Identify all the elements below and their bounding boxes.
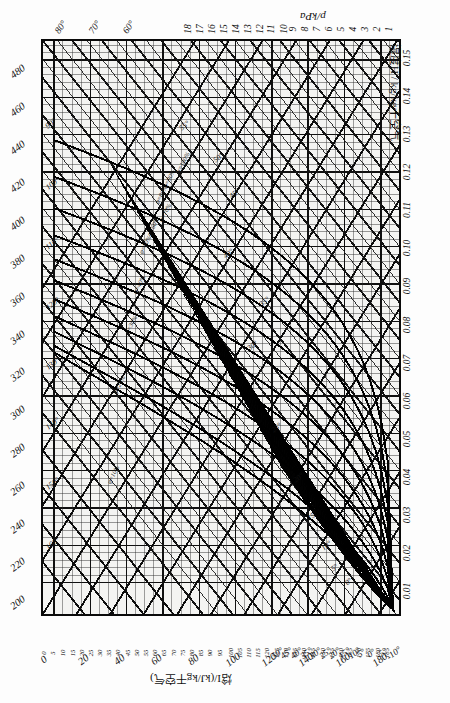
pressure-tick-13: 13 <box>243 24 253 34</box>
enthalpy-ladder-tick-110: 110 <box>245 648 252 657</box>
humidity-tick-0.02: 0.02 <box>402 545 412 562</box>
chart-grid-svg <box>43 41 399 614</box>
enthalpy-ladder-tick-15: 15 <box>69 650 76 657</box>
enthalpy-ladder-tick-90: 90 <box>207 650 214 657</box>
pressure-tick-14: 14 <box>231 24 241 34</box>
left-enthalpy-tick-200: 200 <box>8 593 27 611</box>
humidity-tick-0.09: 0.09 <box>402 278 412 295</box>
pressure-tick-4: 4 <box>348 27 358 32</box>
humidity-tick-0.12: 0.12 <box>402 164 412 181</box>
pressure-tick-10: 10 <box>279 24 289 34</box>
chart-plot-area: φ=100% φ=90% φ=80% φ=70% φ=60% φ=50% φ=4… <box>41 39 401 616</box>
humidity-tick-0.14: 0.14 <box>402 88 412 105</box>
left-enthalpy-tick-320: 320 <box>8 366 27 384</box>
pressure-tick-7: 7 <box>312 27 322 32</box>
humidity-tick-0.07: 0.07 <box>402 354 412 371</box>
enthalpy-ladder-tick-55: 55 <box>142 650 149 657</box>
pressure-tick-8: 8 <box>300 27 310 32</box>
left-enthalpy-tick-460: 460 <box>8 100 27 118</box>
humidity-tick-0.13: 0.13 <box>402 126 412 143</box>
enthalpy-ladder-tick-25: 25 <box>87 650 94 657</box>
left-enthalpy-tick-360: 360 <box>8 290 27 308</box>
enthalpy-ladder-tick-30: 30 <box>96 650 103 657</box>
left-enthalpy-tick-380: 380 <box>8 252 27 270</box>
top-temp-tick-2: 60° <box>121 19 137 36</box>
pressure-tick-17: 17 <box>195 24 205 34</box>
left-enthalpy-tick-400: 400 <box>8 214 27 232</box>
left-enthalpy-tick-340: 340 <box>8 328 27 346</box>
psychrometric-chart-page: φ=100% φ=90% φ=80% φ=70% φ=60% φ=50% φ=4… <box>0 0 450 703</box>
pressure-tick-1: 1 <box>384 27 394 32</box>
top-temp-tick-1: 70° <box>87 19 103 36</box>
pressure-axis-caption: p/kPa <box>300 11 326 23</box>
left-enthalpy-tick-480: 480 <box>8 62 27 80</box>
pressure-tick-5: 5 <box>336 27 346 32</box>
humidity-tick-0.08: 0.08 <box>402 316 412 333</box>
humidity-tick-0.06: 0.06 <box>402 392 412 409</box>
enthalpy-ladder-tick-5: 5 <box>49 651 56 654</box>
left-enthalpy-tick-420: 420 <box>8 176 27 194</box>
pressure-tick-16: 16 <box>207 24 217 34</box>
enthalpy-ladder-tick-70: 70 <box>170 650 177 657</box>
pressure-tick-2: 2 <box>372 27 382 32</box>
enthalpy-axis-caption: 焓I/(kJ/kg干空气) <box>150 672 232 688</box>
humidity-tick-0.11: 0.11 <box>402 202 412 218</box>
enthalpy-ladder-tick-85: 85 <box>197 650 204 657</box>
pressure-tick-12: 12 <box>255 24 265 34</box>
pressure-tick-18: 18 <box>183 24 193 34</box>
left-enthalpy-tick-240: 240 <box>8 517 27 535</box>
enthalpy-ladder-tick-115: 115 <box>254 648 261 657</box>
enthalpy-major-tick-0: 0 <box>38 654 49 666</box>
humidity-tick-0.04: 0.04 <box>402 468 412 485</box>
enthalpy-ladder-tick-95: 95 <box>216 650 223 657</box>
top-temp-tick-0: 80° <box>53 19 69 36</box>
humidity-tick-0.01: 0.01 <box>402 583 412 600</box>
humidity-tick-0.03: 0.03 <box>402 507 412 524</box>
pressure-tick-3: 3 <box>360 27 370 32</box>
pressure-tick-11: 11 <box>266 25 276 34</box>
humidity-tick-0.10: 0.10 <box>402 240 412 257</box>
left-enthalpy-tick-220: 220 <box>8 555 27 573</box>
humidity-tick-0.05: 0.05 <box>402 430 412 447</box>
pressure-tick-6: 6 <box>324 27 334 32</box>
enthalpy-ladder-tick-50: 50 <box>133 650 140 657</box>
left-enthalpy-tick-280: 280 <box>8 441 27 459</box>
left-enthalpy-tick-300: 300 <box>8 404 27 422</box>
enthalpy-ladder-tick-10: 10 <box>60 650 67 657</box>
left-enthalpy-tick-260: 260 <box>8 479 27 497</box>
enthalpy-ladder-tick-75: 75 <box>179 650 186 657</box>
pressure-tick-9: 9 <box>288 27 298 32</box>
enthalpy-ladder-tick-65: 65 <box>161 650 168 657</box>
pressure-tick-15: 15 <box>219 24 229 34</box>
humidity-tick-0.15: 0.15 <box>402 50 412 67</box>
enthalpy-ladder-tick-45: 45 <box>124 650 131 657</box>
left-enthalpy-tick-440: 440 <box>8 138 27 156</box>
enthalpy-ladder-tick-35: 35 <box>106 650 113 657</box>
